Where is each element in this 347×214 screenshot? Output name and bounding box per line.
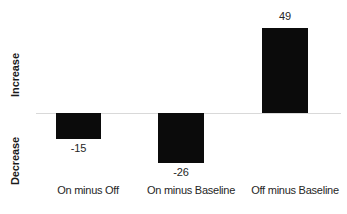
- plot-area: -15 -26 49: [36, 0, 347, 182]
- bar-on-minus-off: [56, 113, 101, 139]
- axis-label-increase: Increase: [6, 30, 24, 120]
- bar-on-minus-baseline: [158, 113, 204, 163]
- category-label-on-minus-baseline: On minus Baseline: [131, 184, 251, 196]
- bar-off-minus-baseline: [262, 28, 308, 113]
- category-label-on-minus-off: On minus Off: [28, 184, 148, 196]
- bar-value-off-minus-baseline: 49: [242, 10, 328, 22]
- bar-chart: Increase Decrease -15 -26 49 On minus Of…: [0, 0, 347, 214]
- bar-value-on-minus-baseline: -26: [138, 166, 224, 178]
- bar-value-on-minus-off: -15: [36, 142, 121, 154]
- axis-label-decrease: Decrease: [6, 116, 24, 206]
- category-axis: On minus Off On minus Baseline Off minus…: [36, 184, 347, 204]
- category-label-off-minus-baseline: Off minus Baseline: [235, 184, 347, 196]
